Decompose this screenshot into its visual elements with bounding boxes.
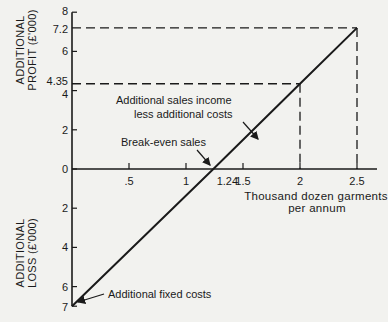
y-tick-label: 2	[62, 124, 68, 136]
y-tick-label: 6	[62, 45, 68, 57]
y-tick-label: 4	[62, 88, 68, 100]
x-tick-label: 2	[297, 175, 303, 187]
arrow-to-break-even	[197, 150, 210, 165]
y-tick-label: 7	[62, 301, 68, 313]
x-tick-label: 2.5	[349, 175, 364, 187]
profit-line	[72, 28, 357, 306]
y-tick-label: 6	[62, 281, 68, 293]
y-tick-label: 7.2	[53, 23, 68, 35]
y-axis-title-profit-line1: ADDITIONAL	[14, 15, 26, 84]
y-tick-label: 4.35	[47, 75, 68, 87]
y-axis-title-profit-line2: PROFIT (£'000)	[26, 9, 38, 90]
annotation-break-even: Break-even sales	[121, 136, 206, 148]
series-line	[72, 28, 357, 306]
y-tick-label: 2	[62, 202, 68, 214]
y-axis-title-loss-line2: LOSS (£'000)	[26, 218, 38, 288]
x-tick-label: .5	[124, 175, 133, 187]
y-axis-title-loss-line1: ADDITIONAL	[14, 218, 26, 287]
y-tick-label: 0	[62, 163, 68, 175]
break-even-chart: ADDITIONAL PROFIT (£'000) ADDITIONAL LOS…	[0, 0, 388, 322]
y-tick-label: 4	[62, 241, 68, 253]
x-axis-title-line2: per annum	[288, 202, 346, 214]
x-tick-label: 1.5	[235, 175, 250, 187]
annotation-fixed-costs: Additional fixed costs	[108, 288, 212, 300]
x-axis-title-line1: Thousand dozen garments	[244, 190, 388, 202]
annotation-sales-income-line1: Additional sales income	[116, 94, 232, 106]
y-tick-label: 8	[62, 5, 68, 17]
tick-marks	[72, 12, 357, 306]
x-tick-label: 1	[183, 175, 189, 187]
annotation-sales-income-line2: less additional costs	[134, 108, 233, 120]
